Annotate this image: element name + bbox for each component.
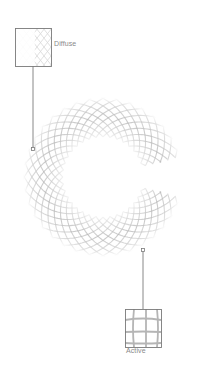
active-anchor-marker	[142, 249, 145, 252]
ring-fade	[21, 95, 185, 259]
texture-diagram: Diffuse Active	[0, 0, 197, 385]
diffuse-anchor-marker	[32, 148, 35, 151]
diagram-canvas	[0, 0, 197, 385]
diffuse-swatch	[1, 28, 108, 66]
diffuse-label: Diffuse	[54, 40, 76, 47]
lattice-ring	[21, 95, 185, 259]
active-label: Active	[126, 347, 146, 354]
active-callout	[125, 249, 162, 348]
